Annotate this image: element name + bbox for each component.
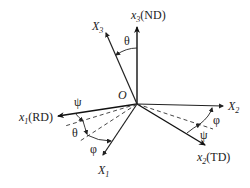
- X3-label: X3: [91, 19, 103, 35]
- euler-angle-diagram: x3(ND) X3 θ O X2 x1(RD) ψ θ φ X1 φ ψ x2(…: [0, 0, 250, 188]
- X2-crystal-axis: [137, 104, 223, 106]
- x2-td-axis: [137, 104, 205, 145]
- dashed-line-right: [137, 104, 213, 129]
- theta-arc-left: [83, 121, 87, 134]
- phi-left-label: φ: [90, 142, 97, 156]
- theta-top-label: θ: [124, 34, 130, 48]
- phi-arc-right: [200, 108, 212, 124]
- psi-left-label: ψ: [74, 95, 82, 109]
- theta-arc-top: [116, 48, 137, 55]
- X2-label: X2: [227, 99, 239, 115]
- phi-arc-left: [87, 135, 111, 141]
- theta-left-label: θ: [72, 126, 78, 140]
- phi-right-label: φ: [213, 113, 220, 127]
- psi-arc-right: [187, 124, 200, 133]
- X1-crystal-axis: [103, 104, 137, 155]
- x3-nd-label: x3(ND): [130, 8, 166, 24]
- x1-rd-axis: [58, 104, 137, 116]
- psi-arc-left: [75, 113, 83, 121]
- x1-rd-label: x1(RD): [18, 110, 53, 126]
- x2-td-label: x2(TD): [196, 150, 230, 166]
- origin-label: O: [118, 88, 127, 102]
- X1-label: X1: [97, 163, 109, 179]
- psi-right-label: ψ: [200, 128, 208, 142]
